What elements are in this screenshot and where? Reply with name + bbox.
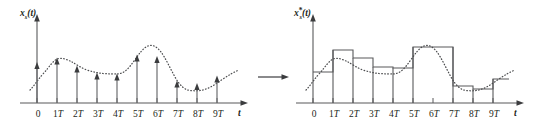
left-tick-label-2: 2T xyxy=(73,109,84,119)
right-signal-arg: (t) xyxy=(302,8,311,19)
left-x-ticks xyxy=(37,98,217,103)
right-step-risers xyxy=(333,47,493,103)
right-step-staircase xyxy=(313,47,509,89)
right-tick-label-9: 9T xyxy=(489,109,500,119)
left-tick-label-3: 3T xyxy=(93,109,104,119)
left-tick-labels: 0 1T 2T 3T 4T 5T 6T 7T 8T 9T xyxy=(36,109,224,119)
left-tick-label-6: 6T xyxy=(153,109,164,119)
right-tick-labels: 0 1T 2T 3T 4T 5T 6T 7T 8T 9T xyxy=(312,109,500,119)
figure-canvas: 0 1T 2T 3T 4T 5T 6T 7T 8T 9T t xs(t) xyxy=(0,0,546,128)
stem-9 xyxy=(214,76,219,104)
right-tick-label-5: 5T xyxy=(409,109,420,119)
right-x-axis xyxy=(296,100,524,106)
right-x-ticks xyxy=(313,98,493,103)
stem-4 xyxy=(114,74,119,104)
right-tick-label-3: 3T xyxy=(369,109,380,119)
right-tick-label-1: 1T xyxy=(329,109,340,119)
right-tick-label-6: 6T xyxy=(429,109,440,119)
left-envelope-curve xyxy=(30,45,239,90)
stem-1 xyxy=(54,58,59,104)
left-impulse-stems xyxy=(34,55,219,104)
right-signal-label: x*s(t) xyxy=(293,6,311,20)
stem-7 xyxy=(174,81,179,104)
left-tick-label-1: 1T xyxy=(53,109,64,119)
left-tick-label-7: 7T xyxy=(173,109,184,119)
left-tick-label-4: 4T xyxy=(113,109,124,119)
right-x-axis-label: t xyxy=(514,108,517,118)
stem-6 xyxy=(154,56,159,103)
right-tick-label-2: 2T xyxy=(349,109,360,119)
right-tick-label-8: 8T xyxy=(469,109,480,119)
left-x-axis xyxy=(20,100,248,106)
stem-8 xyxy=(194,83,199,103)
right-tick-label-0: 0 xyxy=(312,109,317,119)
stem-2 xyxy=(74,66,79,104)
left-tick-label-0: 0 xyxy=(36,109,41,119)
left-signal-arg: (t) xyxy=(27,8,36,19)
sampling-zero-order-hold-figure: 0 1T 2T 3T 4T 5T 6T 7T 8T 9T t xs(t) xyxy=(0,0,546,128)
transition-arrow xyxy=(258,74,289,80)
stem-5 xyxy=(134,55,139,104)
left-tick-label-5: 5T xyxy=(133,109,144,119)
left-tick-label-8: 8T xyxy=(193,109,204,119)
right-plot-group: 0 1T 2T 3T 4T 5T 6T 7T 8T 9T t x*s(t) xyxy=(293,6,524,120)
left-plot-group: 0 1T 2T 3T 4T 5T 6T 7T 8T 9T t xs(t) xyxy=(19,8,248,119)
right-y-axis xyxy=(310,14,316,103)
right-tick-label-4: 4T xyxy=(389,109,400,119)
left-x-axis-label: t xyxy=(238,108,241,118)
stem-3 xyxy=(94,73,99,104)
left-tick-label-9: 9T xyxy=(213,109,224,119)
left-signal-label: xs(t) xyxy=(19,8,36,20)
stem-0 xyxy=(34,62,39,103)
right-tick-label-7: 7T xyxy=(449,109,460,119)
